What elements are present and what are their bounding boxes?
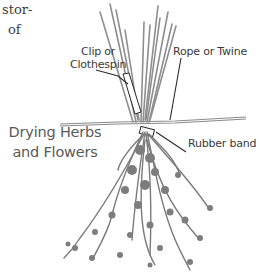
clip-label-line1: Clip or [70,45,126,58]
foliage-clusters [66,145,214,268]
clip-label: Clip or Clothespin [70,45,126,71]
clip-label-line2: Clothespin [70,58,126,71]
diagram-title: Drying Herbs and Flowers [4,122,106,162]
diagram-title-line1: Drying Herbs [4,122,106,142]
rope-label: Rope or Twine [173,45,247,58]
rubber-band-label: Rubber band [188,137,256,150]
diagram-title-line2: and Flowers [4,142,106,162]
